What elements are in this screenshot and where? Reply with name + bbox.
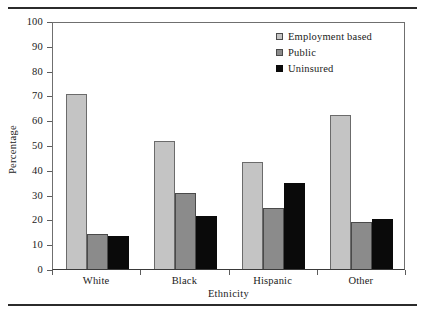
bar[interactable] — [263, 208, 284, 270]
y-tick-label: 60 — [32, 113, 43, 129]
bar[interactable] — [196, 216, 217, 269]
x-tick-label: White — [52, 275, 140, 286]
legend-item[interactable]: Public — [276, 45, 406, 60]
y-tick-label: 30 — [32, 188, 43, 204]
legend-swatch-icon — [276, 33, 283, 40]
y-tick-label: 80 — [32, 64, 43, 80]
bar[interactable] — [351, 222, 372, 269]
y-tick-label: 0 — [38, 262, 43, 278]
x-axis-title: Ethnicity — [52, 288, 405, 299]
legend-swatch-icon — [276, 65, 283, 72]
bottom-divider-rule — [8, 304, 417, 306]
y-tick-label: 10 — [32, 237, 43, 253]
y-tick-label: 20 — [32, 212, 43, 228]
y-tick-label: 40 — [32, 163, 43, 179]
chart-legend: Employment basedPublicUninsured — [276, 29, 406, 77]
bar[interactable] — [154, 141, 175, 269]
bar[interactable] — [108, 236, 129, 269]
bar[interactable] — [175, 193, 196, 269]
x-tick-mark — [405, 270, 406, 275]
bar[interactable] — [284, 183, 305, 269]
y-axis-title: Percentage — [7, 75, 18, 225]
bar[interactable] — [372, 219, 393, 269]
legend-swatch-icon — [276, 49, 283, 56]
legend-label: Uninsured — [288, 63, 334, 74]
top-divider-rule — [8, 7, 417, 9]
x-tick-label: Other — [317, 275, 405, 286]
y-tick-label: 100 — [27, 14, 43, 30]
bar-group — [154, 23, 217, 269]
legend-label: Employment based — [288, 31, 372, 42]
bar[interactable] — [87, 234, 108, 269]
y-tick-label: 70 — [32, 88, 43, 104]
x-axis: WhiteBlackHispanicOther — [52, 270, 405, 290]
legend-item[interactable]: Employment based — [276, 29, 406, 44]
bar[interactable] — [66, 94, 87, 269]
figure: 0102030405060708090100 Percentage WhiteB… — [0, 0, 425, 320]
legend-item[interactable]: Uninsured — [276, 61, 406, 76]
legend-label: Public — [288, 47, 316, 58]
y-axis: 0102030405060708090100 Percentage — [0, 22, 52, 270]
x-tick-label: Black — [140, 275, 228, 286]
bar-group — [66, 23, 129, 269]
bar[interactable] — [242, 162, 263, 269]
y-tick-label: 90 — [32, 39, 43, 55]
y-tick-label: 50 — [32, 138, 43, 154]
bar[interactable] — [330, 115, 351, 269]
x-tick-label: Hispanic — [229, 275, 317, 286]
